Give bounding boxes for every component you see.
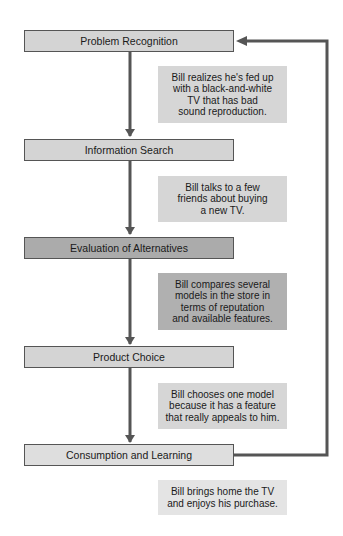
stage-label: Product Choice [93,351,165,363]
stage-consumption-and-learning: Consumption and Learning [24,444,234,466]
stage-label: Information Search [85,144,174,156]
feedback-arrowhead-icon [236,36,247,46]
note-text: Bill chooses one model because it has a … [166,389,280,424]
stage-label: Evaluation of Alternatives [70,242,188,254]
stage-product-choice: Product Choice [24,346,234,368]
note-text: Bill brings home the TV and enjoys his p… [167,486,278,509]
stage-problem-recognition: Problem Recognition [24,30,234,52]
note-product-choice: Bill chooses one model because it has a … [158,383,287,429]
note-information-search: Bill talks to a few friends about buying… [158,176,287,222]
note-text: Bill compares several models in the stor… [172,279,273,325]
note-evaluation-of-alternatives: Bill compares several models in the stor… [158,273,287,330]
note-problem-recognition: Bill realizes he's fed up with a black-a… [158,66,287,123]
stage-label: Problem Recognition [80,35,177,47]
note-text: Bill talks to a few friends about buying… [177,182,267,217]
note-consumption-and-learning: Bill brings home the TV and enjoys his p… [158,480,287,515]
note-text: Bill realizes he's fed up with a black-a… [172,72,274,118]
stage-information-search: Information Search [24,139,234,161]
stage-label: Consumption and Learning [66,449,192,461]
stage-evaluation-of-alternatives: Evaluation of Alternatives [24,237,234,259]
